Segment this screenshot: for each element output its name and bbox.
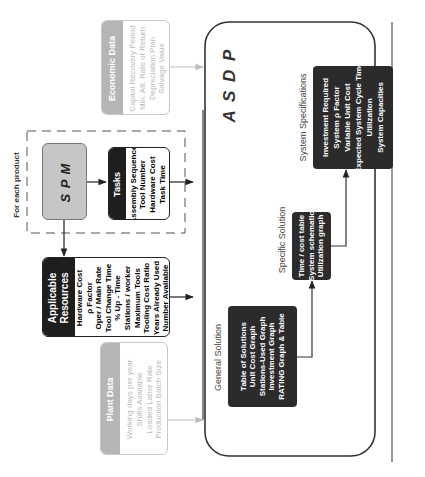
- specific-item: System schematic: [307, 211, 317, 281]
- applicable-title-2: Resources: [59, 272, 71, 323]
- economic-data-box: Economic Data Capital Recovery Period Mi…: [101, 20, 170, 115]
- resource-item: ρ Factor: [85, 282, 95, 314]
- economic-data-title: Economic Data: [108, 36, 118, 101]
- system-spec-item: Expected System Cycle Time: [353, 62, 364, 173]
- economic-item: Capital Recovery Period: [128, 25, 138, 111]
- task-item: Tool Number: [138, 160, 148, 209]
- task-item: Assembly Sequence: [129, 147, 139, 220]
- economic-item: Depreciation Plan: [148, 37, 158, 100]
- plant-data-box: Plant Data Working days per year Shifts …: [100, 342, 168, 455]
- resource-item: Hardware Cost: [75, 270, 85, 326]
- specific-item: Time / cost table: [297, 215, 307, 278]
- system-spec-item: Utilization: [364, 98, 375, 136]
- general-item: Unit Cost Graph: [248, 326, 258, 387]
- resource-item: Tool Change Time: [104, 264, 114, 333]
- plant-item: Working days per year: [125, 360, 135, 440]
- applicable-title-1: Applicable: [47, 273, 59, 324]
- spm-label: S P M: [58, 163, 73, 203]
- general-item: Table of Solutions: [239, 322, 249, 391]
- resource-item: Stations / worker: [123, 266, 133, 330]
- system-specifications-box: Investment Required System ρ Factor Vari…: [313, 66, 393, 169]
- for-each-product-label: For each product: [12, 152, 22, 217]
- system-spec-item: System Capacities: [375, 82, 386, 153]
- spm-box: S P M: [42, 143, 87, 220]
- general-item: Investment Graph: [267, 323, 277, 391]
- plant-item: Loaded Labor Rate: [145, 365, 155, 434]
- resource-item: Years Already Used: [152, 261, 162, 335]
- specific-item: Utilization graph: [316, 215, 326, 278]
- system-spec-item: System ρ Factor: [331, 86, 342, 148]
- resource-item: Maximum Tools: [133, 268, 143, 328]
- asdp-label: A S D P: [220, 48, 240, 123]
- resource-item: Tooling Cost Ratio: [142, 263, 152, 334]
- resource-item: Oper / Main Rate: [94, 266, 104, 329]
- tasks-box: Tasks Assembly Sequence Tool Number Hard…: [108, 147, 170, 220]
- economic-item: Min. Att. Rate of Return: [138, 27, 148, 110]
- system-spec-item: Variable Unit Cost: [342, 83, 353, 151]
- system-spec-item: Investment Required: [320, 78, 331, 157]
- resource-item: Number Available: [161, 265, 170, 332]
- general-solution-title: General Solution: [214, 324, 224, 391]
- system-specifications-title: System Specifications: [299, 73, 309, 161]
- economic-item: Salvage Value: [157, 43, 167, 94]
- general-solution-box: Table of Solutions Unit Cost Graph Stati…: [228, 306, 297, 407]
- plant-data-title: Plant Data: [106, 378, 116, 422]
- task-item: Task Time: [158, 165, 168, 203]
- tasks-title: Tasks: [113, 172, 123, 197]
- general-item: RATING Graph & Table: [277, 313, 287, 399]
- specific-solution-box: Time / cost table System schematic Utili…: [292, 212, 331, 280]
- resource-item: % Up - Time: [113, 275, 123, 321]
- applicable-resources-box: Applicable Resources Hardware Cost ρ Fac…: [42, 257, 170, 337]
- plant-item: Shifts Available: [135, 372, 145, 426]
- plant-item: Production Batch Size: [154, 360, 164, 439]
- task-item: Hardware Cost: [148, 156, 158, 212]
- general-item: Stations-Used Graph: [258, 317, 268, 397]
- specific-solution-title: Specific Solution: [278, 207, 288, 274]
